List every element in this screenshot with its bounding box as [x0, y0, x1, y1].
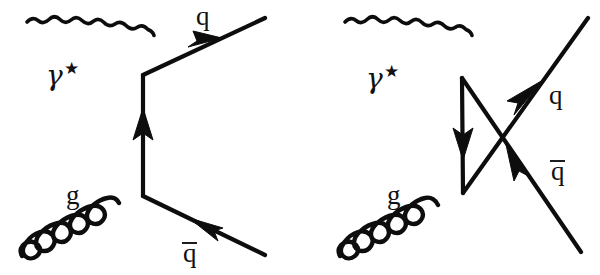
quark-label-right: q [549, 80, 563, 110]
feynman-diagram-canvas: γ ★ g q q γ ★ [0, 0, 600, 275]
photon-star-label-right: ★ [384, 61, 399, 81]
photon-star-label-left: ★ [64, 58, 79, 78]
photon-label-right: γ [366, 62, 383, 95]
antiquark-arrow-right [505, 140, 530, 181]
photon-wavy-line-right [345, 17, 472, 36]
quark-label-left: q [196, 1, 210, 31]
photon-wavy-line-left [27, 17, 154, 36]
gluon-label-right: g [387, 180, 401, 210]
antiquark-label-group-right: q [550, 156, 565, 186]
feynman-diagram-figure: γ ★ g q q γ ★ [0, 0, 600, 275]
diagram-right: γ ★ g q q [339, 17, 588, 259]
photon-label-left: γ [46, 59, 63, 92]
diagram-left: γ ★ g q q [21, 1, 265, 268]
antiquark-label-group-left: q [182, 238, 197, 268]
gluon-label-left: g [66, 180, 80, 210]
